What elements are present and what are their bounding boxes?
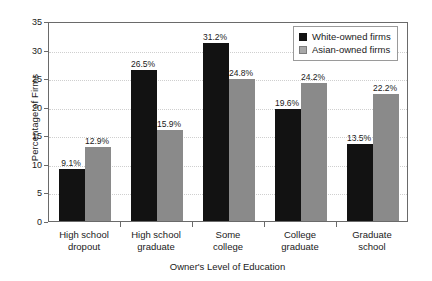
x-tick-mark [336, 222, 337, 227]
category-label-line: Graduate [330, 229, 414, 241]
legend-item: White-owned firms [299, 30, 391, 43]
bar-value-label: 24.2% [293, 73, 333, 82]
bar-asian-owned [157, 130, 183, 221]
bar-asian-owned [229, 79, 255, 221]
bar-value-label: 12.9% [77, 137, 117, 146]
y-tick-mark [44, 79, 48, 80]
y-tick-mark [44, 108, 48, 109]
y-tick-label: 5 [12, 189, 42, 198]
bar-asian-owned [373, 94, 399, 221]
y-tick-label: 0 [12, 218, 42, 227]
x-tick-mark [264, 222, 265, 227]
x-axis-title: Owner's Level of Education [45, 261, 410, 272]
bar-white-owned [347, 144, 373, 221]
y-tick-label: 10 [12, 161, 42, 170]
x-category-label: Graduateschool [330, 229, 414, 253]
bar-value-label: 9.1% [51, 159, 91, 168]
bar-white-owned [275, 109, 301, 221]
legend-swatch-icon [299, 33, 307, 41]
bar-chart: Percentage of Firms Owner's Level of Edu… [0, 0, 432, 281]
bar-value-label: 15.9% [149, 120, 189, 129]
y-tick-label: 25 [12, 75, 42, 84]
y-tick-mark [44, 222, 48, 223]
bar-value-label: 24.8% [221, 69, 261, 78]
y-tick-mark [44, 193, 48, 194]
bar-value-label: 22.2% [365, 84, 405, 93]
legend: White-owned firmsAsian-owned firms [293, 26, 398, 61]
legend-label: Asian-owned firms [312, 44, 390, 55]
bar-value-label: 31.2% [195, 33, 235, 42]
bar-value-label: 19.6% [267, 99, 307, 108]
y-tick-mark [44, 51, 48, 52]
legend-label: White-owned firms [312, 31, 391, 42]
bar-value-label: 13.5% [339, 134, 379, 143]
y-tick-mark [44, 165, 48, 166]
legend-swatch-icon [299, 46, 307, 54]
y-tick-label: 30 [12, 47, 42, 56]
bar-white-owned [131, 70, 157, 221]
legend-item: Asian-owned firms [299, 43, 391, 56]
y-tick-label: 35 [12, 18, 42, 27]
y-tick-label: 15 [12, 132, 42, 141]
y-tick-mark [44, 136, 48, 137]
x-tick-mark [192, 222, 193, 227]
x-tick-mark [120, 222, 121, 227]
bar-white-owned [59, 169, 85, 221]
y-tick-label: 20 [12, 104, 42, 113]
y-tick-mark [44, 22, 48, 23]
category-label-line: school [330, 241, 414, 253]
bar-value-label: 26.5% [123, 60, 163, 69]
